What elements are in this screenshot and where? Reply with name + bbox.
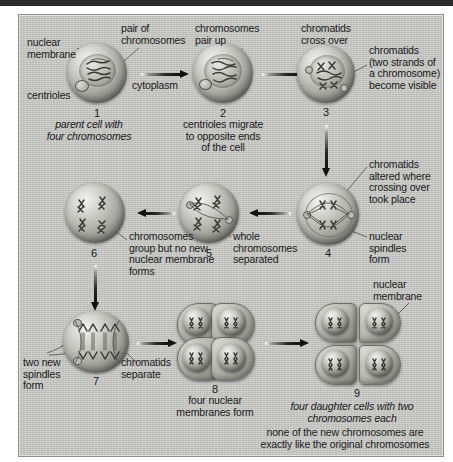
daughter-nucleus (366, 350, 393, 377)
chromosomes-2 (193, 43, 253, 103)
meiosis-diagram-panel: 1 nuclear membrane pair of chromosomes c… (18, 14, 444, 457)
label-centrioles: centrioles (27, 90, 70, 102)
chromosomes-1 (67, 43, 127, 103)
cell-stage-3 (297, 45, 355, 103)
cell-stage-1 (67, 43, 127, 103)
label-chromosomes-pair-up: chromosomes pair up (195, 23, 259, 46)
arrow-8-to-9 (265, 339, 309, 348)
arrow-3-to-4 (322, 125, 331, 177)
chromatids-7 (63, 311, 129, 373)
label-cytoplasm: cytoplasm (132, 80, 178, 92)
label-pair-of-chromosomes: pair of chromosomes (121, 23, 185, 46)
stage-number-9: 9 (346, 387, 368, 399)
top-dark-bar (0, 0, 453, 6)
cell-stage-7 (63, 311, 129, 373)
label-nuclear-spindles-form: nuclear spindles form (369, 231, 406, 266)
daughter-nucleus (183, 344, 211, 372)
stage-number-4: 4 (317, 247, 339, 259)
label-nuclear-membrane-9: nuclear membrane (373, 279, 422, 302)
label-chromatids-separate: chromatids separate (121, 357, 171, 380)
caption-stage-9: four daughter cells with two chromosomes… (267, 401, 437, 424)
daughter-nucleus (183, 308, 211, 336)
label-two-new-spindles-form: two new spindles form (23, 357, 60, 392)
caption-stage-1: parent cell with four chromosomes (37, 119, 141, 142)
caption-stage-2: centrioles migrate to opposite ends of t… (171, 119, 275, 154)
stage-number-6: 6 (83, 247, 105, 259)
cell-stage-2 (193, 43, 253, 103)
chromosomes-3 (297, 45, 355, 103)
arrow-6-to-7 (91, 265, 100, 311)
arrow-1-to-2 (141, 70, 189, 79)
cell-stage-9 (315, 303, 399, 383)
cell-stage-4 (297, 183, 359, 245)
cell-stage-6 (65, 183, 125, 243)
cell-stage-8 (177, 303, 253, 379)
label-chromosomes-group: chromosomes group but no new nuclear mem… (129, 231, 214, 277)
daughter-nucleus (218, 308, 246, 336)
caption-stage-8: four nuclear membranes form (163, 395, 267, 418)
daughter-nucleus (322, 308, 349, 335)
arrow-4-to-5 (249, 209, 291, 218)
daughter-nucleus (366, 308, 393, 335)
note-stage-9: none of the new chromosomes are exactly … (251, 427, 439, 450)
arrow-7-to-8 (137, 339, 177, 348)
chromosomes-6 (65, 183, 125, 243)
chromosomes-4 (297, 183, 359, 245)
stage-number-7: 7 (85, 375, 107, 387)
label-chromatids-altered: chromatids altered where crossing over t… (369, 159, 431, 205)
stage-number-3: 3 (315, 106, 337, 118)
label-chromatids-two-strands: chromatids (two strands of a chromosome)… (369, 45, 440, 91)
arrow-5-to-6 (137, 209, 175, 218)
label-whole-chromosomes-separated: whole chromosomes separated (233, 231, 297, 266)
daughter-nucleus (322, 350, 349, 377)
daughter-nucleus (218, 344, 246, 372)
label-nuclear-membrane-1: nuclear membrane (27, 37, 76, 60)
label-chromatids-cross-over: chromatids cross over (301, 23, 351, 46)
